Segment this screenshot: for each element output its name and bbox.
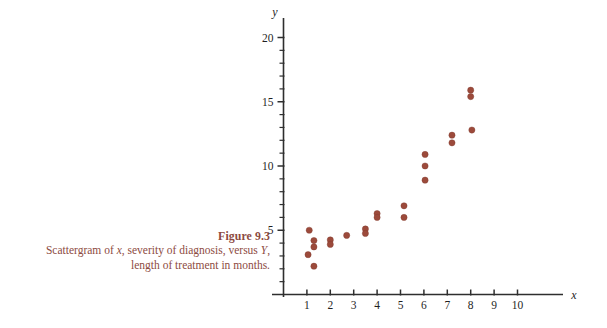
data-point <box>401 214 407 220</box>
data-point <box>422 163 428 169</box>
data-point <box>327 241 333 247</box>
y-tick-label: 20 <box>262 32 274 44</box>
x-tick-label: 2 <box>327 299 333 311</box>
data-point <box>469 127 475 133</box>
x-tick-label: 5 <box>398 299 404 311</box>
plot-axes <box>272 18 563 297</box>
data-point <box>305 252 311 258</box>
data-point <box>344 232 350 238</box>
data-points-group <box>305 87 475 269</box>
scatter-plot: 5101520 12345678910 y x <box>0 0 607 328</box>
x-tick-label: 6 <box>421 299 427 311</box>
x-tick-label: 8 <box>468 299 474 311</box>
y-axis-tick-labels: 5101520 <box>262 32 274 237</box>
data-point <box>311 237 317 243</box>
y-axis-label: y <box>271 5 278 19</box>
x-axis-tick-labels: 12345678910 <box>304 299 523 311</box>
x-tick-label: 1 <box>304 299 310 311</box>
y-tick-label: 10 <box>262 160 274 172</box>
data-point <box>449 132 455 138</box>
x-tick-label: 7 <box>444 299 450 311</box>
data-point <box>311 244 317 250</box>
x-tick-label: 4 <box>374 299 380 311</box>
y-tick-label: 15 <box>262 96 274 108</box>
data-point <box>362 230 368 236</box>
data-point <box>306 227 312 233</box>
data-point <box>374 214 380 220</box>
data-point <box>468 87 474 93</box>
data-point <box>422 177 428 183</box>
data-point <box>401 203 407 209</box>
y-tick-label: 5 <box>268 224 274 236</box>
x-tick-label: 3 <box>351 299 357 311</box>
data-point <box>311 263 317 269</box>
data-point <box>468 93 474 99</box>
x-tick-label: 10 <box>512 299 524 311</box>
x-tick-label: 9 <box>491 299 497 311</box>
data-point <box>422 151 428 157</box>
x-axis-label: x <box>570 288 577 302</box>
data-point <box>449 140 455 146</box>
